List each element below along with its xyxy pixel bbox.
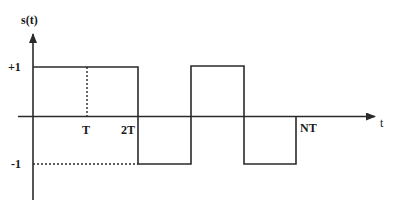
- x-axis-label: t: [380, 117, 383, 129]
- waveform: [33, 66, 296, 164]
- y-level-low-label: -1: [11, 158, 21, 170]
- y-axis-label: s(t): [21, 14, 38, 26]
- y-level-high-label: +1: [8, 61, 21, 73]
- signal-diagram: [0, 0, 394, 210]
- tick-label-2t: 2T: [121, 124, 135, 136]
- tick-label-t: T: [82, 124, 90, 136]
- tick-label-nt: NT: [300, 122, 317, 134]
